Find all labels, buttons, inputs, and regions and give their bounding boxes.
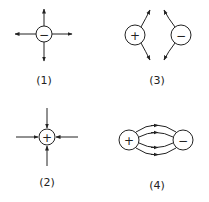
diagram-2: + (2) <box>16 108 78 189</box>
diagram-label: (3) <box>149 74 165 87</box>
field-line <box>139 133 173 138</box>
charge-sign: − <box>176 29 186 43</box>
field-line <box>136 125 176 132</box>
charge-sign: − <box>39 28 49 42</box>
electric-field-diagrams: − (1) + − (3) + (2) + − (4) <box>0 0 209 202</box>
field-line <box>136 148 176 155</box>
diagram-label: (2) <box>39 176 55 189</box>
field-line <box>141 43 150 60</box>
diagram-label: (4) <box>149 179 165 192</box>
field-line <box>164 43 175 60</box>
diagram-label: (1) <box>36 74 52 87</box>
charge-sign: + <box>130 29 140 43</box>
field-line <box>141 10 150 27</box>
diagram-1: − (1) <box>15 9 72 87</box>
charge-sign: − <box>178 134 188 148</box>
diagram-3: + − (3) <box>125 10 191 87</box>
field-line <box>139 143 173 148</box>
charge-sign: + <box>42 131 52 145</box>
charge-sign: + <box>124 134 134 148</box>
field-line <box>164 10 175 27</box>
diagram-4: + − (4) <box>119 125 193 192</box>
